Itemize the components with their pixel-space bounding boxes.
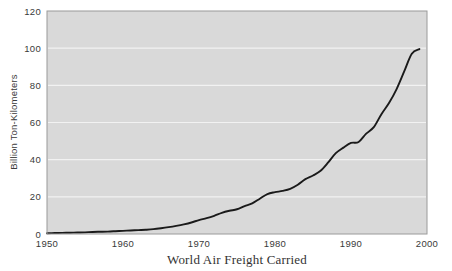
chart-page: 020406080100120 195019601970198019902000… [0,0,452,271]
y-axis-tick-label: 80 [30,80,41,91]
x-axis-tick-label: 1960 [112,238,134,249]
chart-title-caption: World Air Freight Carried [167,252,307,267]
y-axis-tick-label: 20 [30,191,41,202]
y-axis-tick-label: 100 [24,43,41,54]
x-axis-tick-label: 1970 [188,238,210,249]
x-axis-tick-label: 1980 [264,238,286,249]
x-axis-tick-label: 1990 [340,238,362,249]
y-axis-tick-label: 40 [30,154,41,165]
line-chart: 020406080100120 195019601970198019902000… [0,0,452,271]
y-axis-title: Billion Ton-Kilometers [8,74,19,170]
x-axis-tick-label: 2000 [416,238,438,249]
y-axis-tick-label: 120 [24,6,41,17]
x-axis-tick-label: 1950 [36,238,58,249]
y-axis-tick-label: 60 [30,117,41,128]
